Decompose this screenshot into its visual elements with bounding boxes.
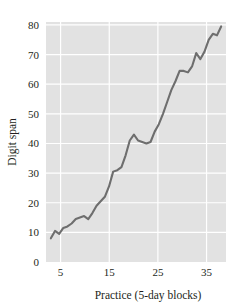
x-tick-35: 35 (201, 266, 213, 278)
y-tick-30: 30 (28, 167, 40, 179)
y-axis-tick-labels: 01020304050607080 (28, 19, 40, 268)
digit-span-line-chart: 01020304050607080 5152535 Practice (5-da… (0, 0, 236, 307)
y-tick-70: 70 (28, 49, 40, 61)
y-tick-60: 60 (28, 78, 40, 90)
y-tick-40: 40 (28, 137, 40, 149)
x-tick-15: 15 (104, 266, 116, 278)
x-tick-25: 25 (152, 266, 164, 278)
y-tick-10: 10 (28, 226, 40, 238)
y-tick-50: 50 (28, 108, 40, 120)
y-tick-80: 80 (28, 19, 40, 31)
x-tick-5: 5 (58, 266, 64, 278)
y-tick-20: 20 (28, 197, 40, 209)
y-tick-0: 0 (34, 256, 40, 268)
x-axis-title: Practice (5-day blocks) (95, 289, 202, 302)
y-axis-title: Digit span (6, 118, 19, 166)
chart-figure: 01020304050607080 5152535 Practice (5-da… (0, 0, 236, 307)
